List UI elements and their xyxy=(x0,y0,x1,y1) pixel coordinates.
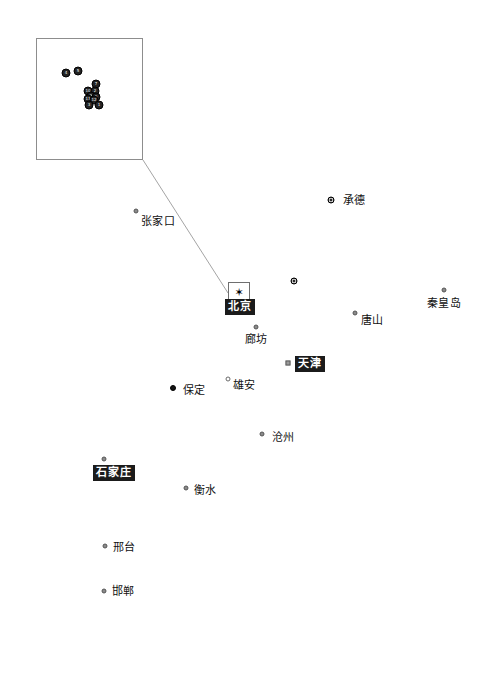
city-marker-tianjin[interactable] xyxy=(286,361,291,366)
city-marker-zhangjiakou[interactable] xyxy=(134,209,139,214)
city-label-cangzhou: 沧州 xyxy=(272,431,295,444)
city-marker-handan[interactable] xyxy=(102,589,107,594)
city-marker-cangzhou[interactable] xyxy=(260,432,265,437)
cluster-marker[interactable]: 1 xyxy=(95,101,104,110)
city-marker-unlabeled-point-north[interactable] xyxy=(291,278,298,285)
city-label-xingtai: 邢台 xyxy=(113,541,136,554)
city-marker-xiongan[interactable] xyxy=(226,377,231,382)
capital-star-icon[interactable]: ✶ xyxy=(234,287,245,298)
city-label-langfang: 廊坊 xyxy=(245,333,268,346)
cluster-marker[interactable]: 5 xyxy=(74,67,83,76)
city-label-tianjin: 天津 xyxy=(295,356,325,372)
city-label-hengshui: 衡水 xyxy=(194,484,217,497)
city-label-xiongan: 雄安 xyxy=(233,379,256,392)
city-label-beijing: 北京 xyxy=(225,299,255,315)
city-label-tangshan: 唐山 xyxy=(361,314,384,327)
city-label-handan: 邯郸 xyxy=(112,585,135,598)
city-marker-qinhuangdao[interactable] xyxy=(442,288,447,293)
city-label-zhangjiakou: 张家口 xyxy=(141,215,176,228)
city-marker-hengshui[interactable] xyxy=(184,486,189,491)
city-label-baoding: 保定 xyxy=(183,384,206,397)
cluster-marker[interactable]: 4 xyxy=(62,69,71,78)
city-marker-tangshan[interactable] xyxy=(353,311,358,316)
city-label-qinhuangdao: 秦皇岛 xyxy=(427,297,462,310)
cluster-marker[interactable]: 3 xyxy=(85,101,94,110)
city-marker-xingtai[interactable] xyxy=(103,544,108,549)
city-label-shijiazhuang: 石家庄 xyxy=(93,465,135,481)
city-label-chengde: 承德 xyxy=(343,194,366,207)
city-marker-shijiazhuang[interactable] xyxy=(102,457,107,462)
city-marker-langfang[interactable] xyxy=(254,325,259,330)
city-marker-baoding[interactable] xyxy=(170,385,176,391)
map-figure: 45710296111231 ✶ 张家口承德北京秦皇岛唐山廊坊天津雄安保定沧州石… xyxy=(0,0,493,697)
city-marker-chengde[interactable] xyxy=(328,197,335,204)
